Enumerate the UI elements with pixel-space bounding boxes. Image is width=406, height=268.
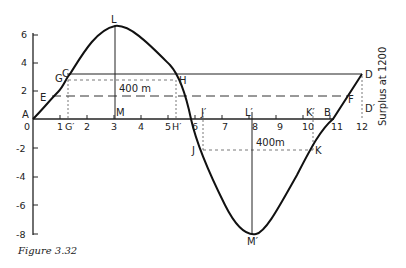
x-tick-10: 10 (302, 121, 314, 132)
label-k-prime: K′ (306, 107, 316, 118)
x-tick-1: 1 (57, 121, 63, 132)
y-tick-6: 6 (21, 29, 27, 40)
x-tick-2: 2 (84, 121, 90, 132)
label-h-prime: H′ (172, 121, 181, 132)
y-ticks (33, 35, 38, 234)
x-tick-9: 9 (277, 121, 283, 132)
x-tick-4: 4 (138, 121, 144, 132)
y-tick-0: 0 (24, 121, 30, 132)
y-tick-neg4: -4 (16, 171, 25, 182)
label-d: D (365, 69, 373, 80)
label-j-prime: J′ (200, 107, 207, 118)
y-tick-neg6: -6 (16, 200, 25, 211)
mass-haul-diagram: 6 4 2 0 -2 -4 -6 -8 1 2 3 4 5 6 7 8 9 10… (0, 0, 406, 268)
label-a: A (22, 109, 29, 120)
x-tick-7: 7 (222, 121, 228, 132)
y-tick-neg2: -2 (16, 143, 25, 154)
label-d-prime: D′ (365, 103, 376, 114)
label-g: G (55, 73, 63, 84)
x-tick-11: 11 (331, 121, 343, 132)
figure-caption: Figure 3.32 (17, 245, 77, 256)
label-h: H (179, 75, 187, 86)
x-tick-5: 5 (165, 121, 171, 132)
label-l-prime: L′ (245, 107, 254, 118)
label-j: J (191, 145, 195, 156)
label-m: M (116, 107, 125, 118)
label-b: B (324, 107, 331, 118)
y-tick-2: 2 (21, 85, 27, 96)
label-e: E (40, 92, 46, 103)
x-tick-12: 12 (356, 121, 368, 132)
label-k: K (315, 145, 322, 156)
surplus-label: Surplus at 1200 (377, 47, 388, 126)
distance-400m-upper: 400 m (119, 83, 151, 94)
label-g-prime: G′ (65, 121, 75, 132)
label-c: C (62, 68, 69, 79)
distance-400m-lower: 400m (256, 137, 285, 148)
label-f: F (348, 94, 354, 105)
x-tick-3: 3 (111, 121, 117, 132)
label-m-prime: M′ (247, 236, 259, 247)
y-tick-4: 4 (21, 57, 27, 68)
y-tick-neg8: -8 (16, 229, 25, 240)
x-tick-8: 8 (252, 121, 258, 132)
label-l: L (111, 14, 117, 25)
